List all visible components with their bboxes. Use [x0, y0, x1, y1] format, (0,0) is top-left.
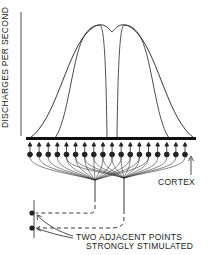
- neuron-cell-body: [110, 152, 115, 157]
- arrowhead-icon: [174, 143, 178, 147]
- neuron-cell-body: [28, 152, 33, 157]
- dendrite-branch: [95, 157, 139, 180]
- arrowhead-icon: [65, 143, 69, 147]
- neuron-cell-body: [73, 152, 78, 157]
- stimulus-point-upper: [29, 210, 34, 215]
- neuron-cell-body: [173, 152, 178, 157]
- arrowhead-icon: [156, 143, 160, 147]
- arrowhead-icon: [28, 143, 32, 147]
- arrowhead-icon: [128, 143, 132, 147]
- arrowhead-icon: [74, 143, 78, 147]
- neuron-cell-body: [55, 152, 60, 157]
- neuron-cell-body: [164, 152, 169, 157]
- cortical-response-diagram: [0, 0, 221, 255]
- arrowhead-icon: [101, 143, 105, 147]
- neuron-cell-body: [91, 152, 96, 157]
- left-fiber-dashed: [36, 198, 95, 213]
- skin-surface: [29, 200, 34, 238]
- neuron-cell-body: [46, 152, 51, 157]
- neuron-cell-body: [155, 152, 160, 157]
- dendrite-branch: [95, 157, 130, 180]
- cortex-baseline: [26, 137, 196, 140]
- dendrite-branch: [76, 157, 124, 178]
- neuron-cell-body: [37, 152, 42, 157]
- neuron-cell-body: [146, 152, 151, 157]
- stimulus-point-lower: [29, 225, 34, 230]
- afferent-fibers: [36, 178, 124, 228]
- neuron-cell-body: [128, 152, 133, 157]
- combined-response-curve: [30, 25, 194, 138]
- stimulus-label-line2: STRONGLY STIMULATED: [86, 242, 193, 251]
- neuron-cell-body: [119, 152, 124, 157]
- neuron-cell-body: [137, 152, 142, 157]
- cortex-pointer-arrow: [189, 156, 194, 175]
- neuron-cell-body: [101, 152, 106, 157]
- neuron-cell-body: [82, 152, 87, 157]
- arrowhead-icon: [37, 143, 41, 147]
- arrowhead-icon: [147, 143, 151, 147]
- arrowhead-icon: [138, 143, 142, 147]
- stimulus-label-arrows: [37, 215, 73, 238]
- arrowhead-icon: [46, 143, 50, 147]
- cortex-label: CORTEX: [158, 178, 195, 187]
- arrowhead-icon: [110, 143, 114, 147]
- arrowhead-icon: [165, 143, 169, 147]
- arrowhead-icon: [92, 143, 96, 147]
- arrowhead-icon: [56, 143, 60, 147]
- y-axis-label: DISCHARGES PER SECOND: [1, 7, 10, 128]
- neuron-cell-body: [183, 152, 188, 157]
- arrowhead-icon: [183, 143, 187, 147]
- neuron-cell-body: [64, 152, 69, 157]
- neuron-array: [28, 143, 188, 181]
- arrowhead-icon: [83, 143, 87, 147]
- arrowhead-icon: [119, 143, 123, 147]
